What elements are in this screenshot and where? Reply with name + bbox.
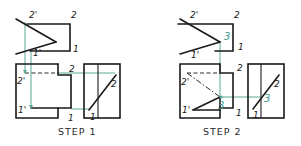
label-1: 1: [68, 113, 74, 123]
label-1-prime: 1': [33, 48, 41, 58]
label-2: 2: [237, 63, 243, 73]
label-1-prime: 1': [182, 105, 190, 115]
label-1-prime: 1': [18, 105, 26, 115]
point-3-marker: [219, 95, 222, 98]
label-2: 2: [274, 79, 280, 89]
label-1-prime: 1': [191, 50, 199, 60]
label-2: 2: [71, 10, 77, 20]
label-2-prime: 2': [29, 10, 37, 20]
step-2-side-view: 2 3 1: [248, 64, 284, 120]
label-3: 3: [264, 93, 270, 104]
label-2: 2: [69, 64, 75, 74]
step-2-top-view: 2' 2 3 1 1': [178, 10, 244, 60]
label-1: 1: [236, 108, 242, 118]
label-1: 1: [90, 112, 96, 122]
step-1-caption: STEP 1: [58, 126, 97, 137]
label-2: 2: [111, 79, 117, 89]
label-3: 3: [218, 100, 224, 111]
label-3: 3: [224, 31, 230, 42]
step-2-group: 2' 2 3 1 1' 2 2' 1' 3 1 2 3: [178, 10, 284, 137]
label-1: 1: [238, 42, 244, 52]
orthographic-projection-figure: 2' 2 1 1' 2 2' 1' 1 2 1 STEP 1: [0, 0, 301, 146]
step-2-front-view: 2 2' 1' 3 1: [180, 63, 243, 118]
step-2-caption: STEP 2: [203, 126, 242, 137]
label-1: 1: [73, 44, 79, 54]
step-1-group: 2' 2 1 1' 2 2' 1' 1 2 1 STEP 1: [16, 10, 120, 137]
label-1: 1: [253, 110, 259, 120]
label-2-prime: 2': [181, 77, 189, 87]
label-2-prime: 2': [190, 10, 198, 20]
label-2-prime: 2': [17, 76, 25, 86]
label-2: 2: [234, 10, 240, 20]
